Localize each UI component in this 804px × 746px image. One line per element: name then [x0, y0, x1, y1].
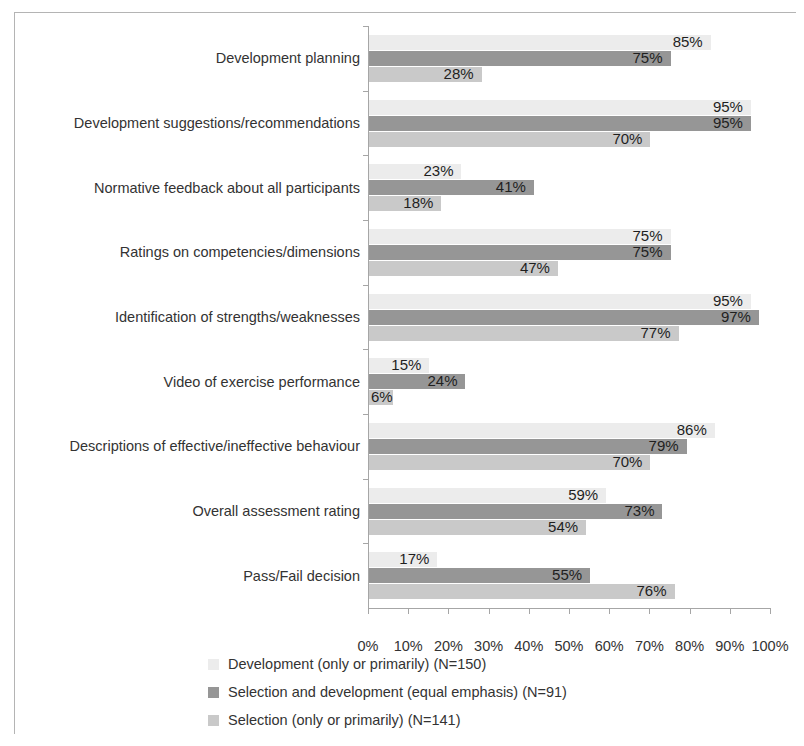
bar-row: 73%: [369, 504, 770, 519]
bar-value-label: 95%: [713, 293, 743, 309]
bar-row: 95%: [369, 116, 770, 131]
legend-swatch-icon: [208, 687, 219, 698]
legend-item[interactable]: Selection and development (equal emphasi…: [208, 678, 768, 706]
x-axis-tick: [529, 608, 530, 614]
bar-row: 70%: [369, 132, 770, 147]
y-axis-tick: [363, 91, 368, 92]
legend-item[interactable]: Development (only or primarily) (N=150): [208, 650, 768, 678]
category-label: Descriptions of effective/ineffective be…: [8, 438, 360, 455]
page-border-top: [14, 12, 796, 13]
bar-row: 77%: [369, 326, 770, 341]
bar-row: 85%: [369, 35, 770, 50]
bar-value-label: 73%: [624, 503, 654, 519]
bar[interactable]: [369, 294, 751, 309]
y-axis-tick: [363, 26, 368, 27]
bar-row: 95%: [369, 294, 770, 309]
bar-value-label: 23%: [423, 163, 453, 179]
bar-row: 54%: [369, 520, 770, 535]
category-label: Ratings on competencies/dimensions: [8, 244, 360, 261]
bar-row: 59%: [369, 488, 770, 503]
bar-group: 15%24%6%: [369, 358, 770, 406]
bar[interactable]: [369, 229, 671, 244]
bar-value-label: 28%: [444, 66, 474, 82]
chart-legend: Development (only or primarily) (N=150)S…: [208, 650, 768, 734]
bar[interactable]: [369, 310, 759, 325]
x-axis-tick: [368, 608, 369, 614]
bar-value-label: 55%: [552, 567, 582, 583]
bar[interactable]: [369, 132, 650, 147]
bar-group: 86%79%70%: [369, 423, 770, 471]
x-axis-tick: [609, 608, 610, 614]
y-axis-tick: [363, 414, 368, 415]
y-axis-tick: [363, 349, 368, 350]
bar-value-label: 70%: [612, 131, 642, 147]
x-axis-tick: [569, 608, 570, 614]
bar-group: 95%97%77%: [369, 294, 770, 342]
bar-row: 86%: [369, 423, 770, 438]
x-axis-tick: [649, 608, 650, 614]
bar-group: 59%73%54%: [369, 488, 770, 536]
category-label: Development suggestions/recommendations: [8, 115, 360, 132]
bar-value-label: 85%: [673, 34, 703, 50]
y-axis-tick: [363, 285, 368, 286]
bar-row: 95%: [369, 100, 770, 115]
bar[interactable]: [369, 455, 650, 470]
bar-value-label: 76%: [637, 583, 667, 599]
bar-value-label: 75%: [633, 244, 663, 260]
bar-value-label: 95%: [713, 99, 743, 115]
bar-value-label: 77%: [641, 325, 671, 341]
bar-row: 75%: [369, 245, 770, 260]
bar-value-label: 47%: [520, 260, 550, 276]
bar[interactable]: [369, 100, 751, 115]
bar-row: 76%: [369, 584, 770, 599]
bar-row: 28%: [369, 67, 770, 82]
bar-value-label: 79%: [649, 438, 679, 454]
bar-row: 18%: [369, 196, 770, 211]
legend-swatch-icon: [208, 659, 219, 670]
bar-row: 75%: [369, 229, 770, 244]
bar[interactable]: [369, 584, 675, 599]
category-label: Development planning: [8, 50, 360, 67]
bar-row: 47%: [369, 261, 770, 276]
category-label: Video of exercise performance: [8, 374, 360, 391]
bar-group: 23%41%18%: [369, 164, 770, 212]
bar-value-label: 95%: [713, 115, 743, 131]
bar-row: 23%: [369, 164, 770, 179]
x-axis-tick: [448, 608, 449, 614]
bar-value-label: 15%: [391, 357, 421, 373]
bar-value-label: 54%: [548, 519, 578, 535]
bar-value-label: 75%: [633, 228, 663, 244]
bar-value-label: 97%: [721, 309, 751, 325]
category-label: Normative feedback about all participant…: [8, 180, 360, 197]
x-axis-tick: [730, 608, 731, 614]
x-axis-tick: [690, 608, 691, 614]
bar-value-label: 59%: [568, 487, 598, 503]
bar-value-label: 70%: [612, 454, 642, 470]
bar[interactable]: [369, 504, 662, 519]
bar-row: 70%: [369, 455, 770, 470]
legend-label: Development (only or primarily) (N=150): [228, 656, 486, 673]
bar-row: 17%: [369, 552, 770, 567]
bar-group: 95%95%70%: [369, 100, 770, 148]
bar[interactable]: [369, 245, 671, 260]
legend-swatch-icon: [208, 715, 219, 726]
bar-group: 17%55%76%: [369, 552, 770, 600]
y-axis-tick: [363, 220, 368, 221]
legend-item[interactable]: Selection (only or primarily) (N=141): [208, 706, 768, 734]
bar-value-label: 75%: [633, 50, 663, 66]
bar-group: 75%75%47%: [369, 229, 770, 277]
bar[interactable]: [369, 116, 751, 131]
bar[interactable]: [369, 51, 671, 66]
bar[interactable]: [369, 35, 711, 50]
bar-row: 75%: [369, 51, 770, 66]
bar-value-label: 24%: [427, 373, 457, 389]
bar-row: 79%: [369, 439, 770, 454]
bar[interactable]: [369, 423, 715, 438]
bar-value-label: 86%: [677, 422, 707, 438]
bar-value-label: 17%: [399, 551, 429, 567]
plot-area: 0%10%20%30%40%50%60%70%80%90%100%85%75%2…: [368, 26, 770, 608]
bar-row: 55%: [369, 568, 770, 583]
category-label: Overall assessment rating: [8, 503, 360, 520]
bar[interactable]: [369, 439, 687, 454]
bar[interactable]: [369, 326, 679, 341]
